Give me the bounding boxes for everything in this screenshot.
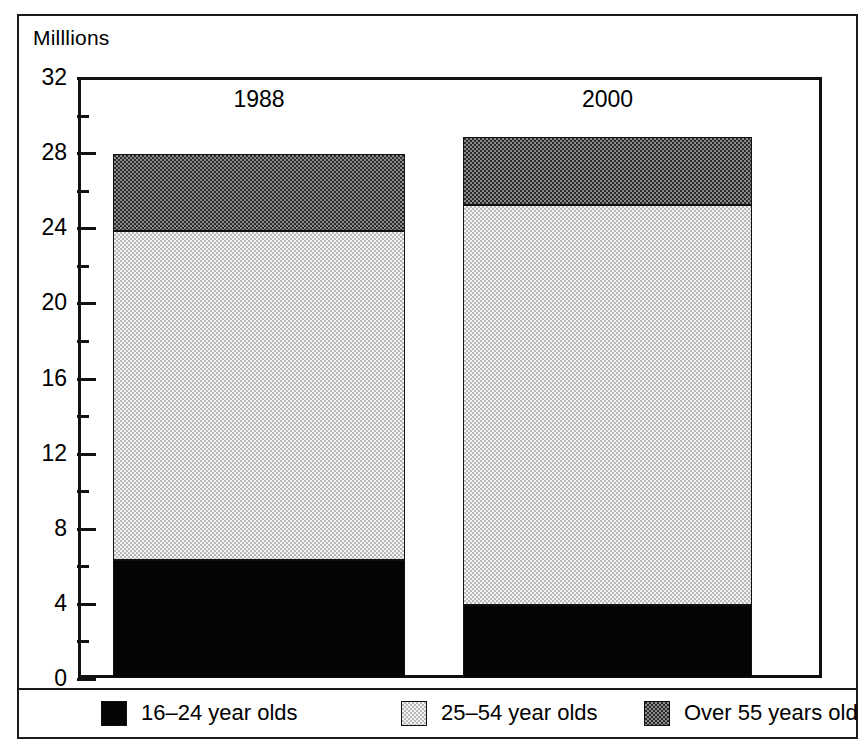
tick-mark	[77, 227, 96, 230]
tick-mark	[77, 678, 96, 681]
bar-segment-2000-25-54[interactable]	[463, 205, 752, 605]
legend-swatch-icon	[101, 701, 127, 726]
y-tick-label: 4	[54, 591, 67, 614]
legend-item-0[interactable]: 16–24 year olds	[101, 696, 298, 730]
legend-swatch-icon	[401, 701, 427, 726]
tick-mark	[77, 415, 89, 418]
legend-item-1[interactable]: 25–54 year olds	[401, 696, 598, 730]
tick-mark	[77, 190, 89, 193]
tick-mark	[77, 302, 96, 305]
tick-mark	[77, 640, 89, 643]
tick-mark	[77, 528, 96, 531]
bar-segment-1988-over-55[interactable]	[113, 154, 405, 231]
y-tick-label: 16	[41, 366, 67, 389]
tick-mark	[77, 115, 89, 118]
legend-label: 16–24 year olds	[141, 702, 298, 724]
y-tick-label: 28	[41, 141, 67, 164]
legend-divider	[19, 688, 856, 690]
plot-area: 322824201612840 19882000	[78, 77, 822, 678]
y-tick-label: 32	[41, 66, 67, 89]
bar-segment-2000-over-55[interactable]	[463, 137, 752, 205]
legend-label: 25–54 year olds	[441, 702, 598, 724]
tick-mark	[77, 152, 96, 155]
legend-label: Over 55 years old	[684, 702, 858, 724]
bar-category-label-2000: 2000	[582, 88, 633, 111]
tick-mark	[77, 265, 89, 268]
y-tick-label: 8	[54, 516, 67, 539]
chart-legend: 16–24 year olds25–54 year oldsOver 55 ye…	[19, 696, 856, 736]
tick-mark	[77, 340, 89, 343]
bar-segment-2000-16-24[interactable]	[463, 605, 752, 678]
y-tick-label: 24	[41, 216, 67, 239]
y-tick-label: 0	[54, 667, 67, 690]
bar-segment-1988-16-24[interactable]	[113, 560, 405, 678]
tick-mark	[77, 77, 96, 80]
tick-mark	[77, 453, 96, 456]
legend-swatch-icon	[644, 701, 670, 726]
tick-mark	[77, 490, 89, 493]
tick-mark	[77, 565, 89, 568]
y-tick-label: 20	[41, 291, 67, 314]
bar-segment-1988-25-54[interactable]	[113, 231, 405, 560]
tick-mark	[77, 603, 96, 606]
y-tick-label: 12	[41, 441, 67, 464]
y-axis-title: Milllions	[33, 26, 109, 50]
legend-item-2[interactable]: Over 55 years old	[644, 696, 858, 730]
bar-category-label-1988: 1988	[233, 88, 284, 111]
tick-mark	[77, 378, 96, 381]
stacked-bar-chart-figure: Milllions 322824201612840 19882000 16–24…	[0, 0, 865, 754]
